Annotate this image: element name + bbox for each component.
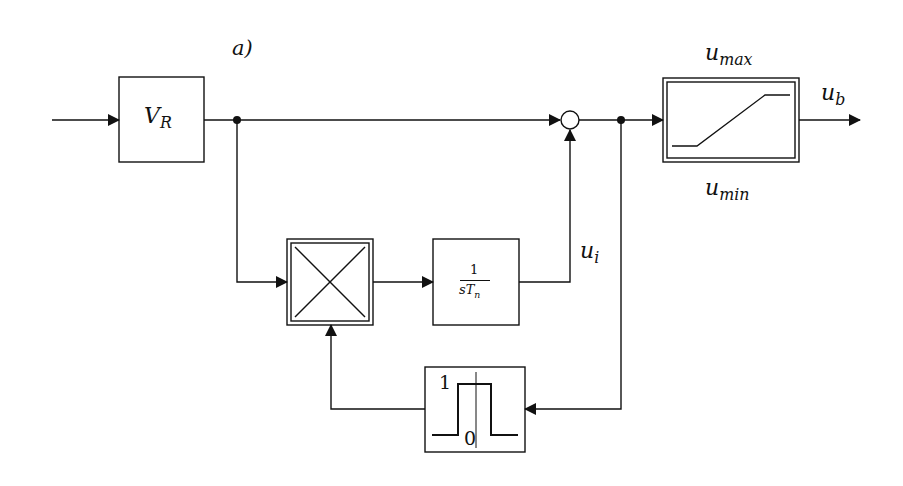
integrator-denominator: sTn — [459, 282, 480, 300]
window-low-label: 0 — [464, 427, 476, 449]
umin-label: umin — [705, 175, 749, 204]
ub-label: ub — [821, 80, 845, 109]
ui-label: ui — [580, 238, 599, 267]
umax-label: umax — [705, 40, 753, 69]
block-diagram: a) VR 1 sTn ui ub umax umin 1 0 — [0, 0, 903, 486]
window-high-label: 1 — [439, 371, 451, 393]
gain-label: VR — [144, 103, 172, 132]
integrator-numerator: 1 — [470, 262, 478, 277]
diagram-lines — [0, 0, 903, 486]
diagram-label: a) — [232, 36, 253, 60]
fraction-bar — [460, 280, 490, 281]
